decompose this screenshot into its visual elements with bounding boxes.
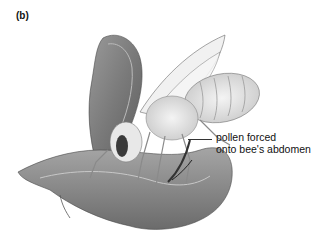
bee-head (110, 122, 142, 162)
callout-line-1: pollen forced (216, 131, 311, 143)
bee-eye (116, 135, 128, 157)
callout-line-2: onto bee's abdomen (216, 143, 311, 155)
pollen-callout: pollen forced onto bee's abdomen (216, 131, 311, 155)
callout-leader-line (188, 139, 212, 140)
bee-flower-illustration (0, 0, 334, 242)
bee-thorax (146, 96, 198, 140)
